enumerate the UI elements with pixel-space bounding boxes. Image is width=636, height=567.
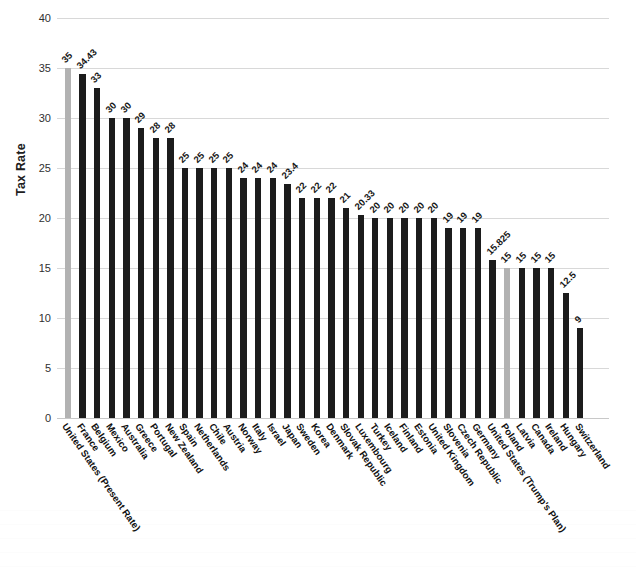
bar[interactable] [109,118,115,418]
bar[interactable] [79,74,85,418]
bar[interactable] [284,184,290,418]
bar-value-label: 22 [308,180,323,195]
bar[interactable] [401,218,407,418]
bar-value-label: 28 [147,120,162,135]
bar-value-label: 20 [396,200,411,215]
bar[interactable] [577,328,583,418]
bar[interactable] [504,268,510,418]
bar-slot: 15 [501,18,516,418]
bar-value-label: 21 [338,190,353,205]
bar-value-label: 15 [499,250,514,265]
bar[interactable] [255,178,261,418]
bar[interactable] [519,268,525,418]
bar-slot: 33 [91,18,106,418]
bar-value-label: 20 [367,200,382,215]
bar-value-label: 22 [294,180,309,195]
y-tick-label: 35 [17,62,51,74]
bar-value-label: 24 [250,160,265,175]
bar-slot: 12.5 [560,18,575,418]
bar-value-label: 30 [118,100,133,115]
bar-slot: 20 [384,18,399,418]
bar[interactable] [138,128,144,418]
bar[interactable] [270,178,276,418]
bar-slot: 25 [223,18,238,418]
bar-chart: Tax Rate 3534.43333030292828252525252424… [0,0,636,567]
bar-slot: 22 [311,18,326,418]
bar-slot: 15.825 [487,18,502,418]
bar-slot: 20 [399,18,414,418]
bar-slot: 24 [267,18,282,418]
y-tick-label: 10 [17,312,51,324]
bar[interactable] [211,168,217,418]
bar[interactable] [343,208,349,418]
bar[interactable] [182,168,188,418]
bar[interactable] [460,228,466,418]
x-axis-category-labels: United States (Present Rate)FranceBelgiu… [57,421,609,561]
bar[interactable] [416,218,422,418]
bar-slot: 28 [165,18,180,418]
bar-value-label: 15 [513,250,528,265]
bar-value-label: 25 [220,150,235,165]
bar[interactable] [475,228,481,418]
bar-value-label: 24 [264,160,279,175]
bar[interactable] [563,293,569,418]
bar[interactable] [533,268,539,418]
bar[interactable] [153,138,159,418]
bar-value-label: 29 [133,110,148,125]
bar-value-label: 19 [469,210,484,225]
bar-slot: 22 [296,18,311,418]
bar-slot: 22 [326,18,341,418]
bar[interactable] [445,228,451,418]
bar-value-label: 25 [206,150,221,165]
y-tick-label: 20 [17,212,51,224]
bar-slot: 25 [179,18,194,418]
bar[interactable] [196,168,202,418]
bar-series: 3534.433330302928282525252524242423.4222… [57,18,609,418]
bar-slot: 15 [516,18,531,418]
bar-slot: 25 [209,18,224,418]
bar[interactable] [548,268,554,418]
bar-slot: 21 [340,18,355,418]
bar[interactable] [314,198,320,418]
bar-slot: 20.33 [355,18,370,418]
y-tick-label: 0 [17,412,51,424]
y-tick-label: 30 [17,112,51,124]
bar[interactable] [328,198,334,418]
gridline-0 [57,418,609,419]
bar-slot: 15 [531,18,546,418]
y-tick-label: 5 [17,362,51,374]
bar[interactable] [489,260,495,418]
bar[interactable] [94,88,100,418]
bar-value-label: 28 [162,120,177,135]
bar-value-label: 33 [89,70,104,85]
bar-value-label: 15 [528,250,543,265]
bar[interactable] [226,168,232,418]
bar[interactable] [123,118,129,418]
bar-slot: 15 [545,18,560,418]
y-tick-label: 15 [17,262,51,274]
bar-slot: 20 [414,18,429,418]
bar[interactable] [387,218,393,418]
bar[interactable] [65,68,71,418]
bar[interactable] [358,215,364,418]
bar-value-label: 20 [381,200,396,215]
bar-slot: 30 [106,18,121,418]
bar-value-label: 20 [425,200,440,215]
bar-slot: 19 [472,18,487,418]
bar-slot: 9 [575,18,590,418]
bar-value-label: 25 [176,150,191,165]
bar-slot: 28 [150,18,165,418]
bar-slot: 29 [135,18,150,418]
bar-value-label: 30 [103,100,118,115]
bar-value-label: 35 [59,50,74,65]
bar[interactable] [299,198,305,418]
bar-slot: 30 [121,18,136,418]
bar[interactable] [372,218,378,418]
bar-slot: 24 [238,18,253,418]
bar-value-label: 20 [411,200,426,215]
bar[interactable] [240,178,246,418]
bar[interactable] [167,138,173,418]
bar[interactable] [431,218,437,418]
bar-value-label: 24 [235,160,250,175]
bar-slot: 20 [370,18,385,418]
